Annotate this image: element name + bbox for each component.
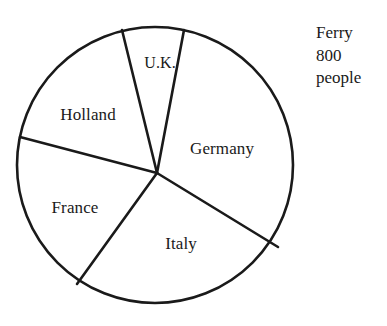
- pie-slice-label-france: France: [52, 199, 99, 216]
- caption-line-unit: people: [316, 67, 361, 90]
- caption-line-title: Ferry: [316, 22, 361, 45]
- caption-line-total: 800: [316, 45, 361, 68]
- pie-slice-label-uk: U.K.: [144, 55, 176, 71]
- pie-slice-label-germany: Germany: [190, 140, 254, 157]
- pie-slice-label-italy: Italy: [165, 235, 197, 252]
- pie-slice-label-holland: Holland: [60, 106, 115, 123]
- chart-caption: Ferry 800 people: [316, 22, 361, 90]
- pie-chart-figure: U.K. Germany Italy France Holland Ferry …: [0, 0, 387, 326]
